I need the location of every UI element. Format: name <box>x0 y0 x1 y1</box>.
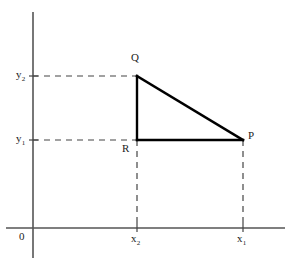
axis-label-x2-sub: 2 <box>137 239 141 247</box>
point-label-P: P <box>248 130 254 141</box>
side-QP-hypotenuse <box>137 76 243 140</box>
axis-label-y2-sub: 2 <box>22 75 26 83</box>
point-label-Q: Q <box>131 52 139 63</box>
axis-label-y1-sub: 1 <box>22 139 26 147</box>
coordinate-diagram: Q P R y2 y1 x2 x1 0 <box>0 0 291 267</box>
axis-label-x1-sub: 1 <box>243 239 247 247</box>
axis-label-y2: y2 <box>16 69 25 83</box>
point-label-R: R <box>122 143 130 154</box>
axis-label-x2: x2 <box>131 233 140 247</box>
origin-label: 0 <box>19 231 25 242</box>
axis-label-y1: y1 <box>16 133 25 147</box>
axis-label-x1: x1 <box>237 233 246 247</box>
